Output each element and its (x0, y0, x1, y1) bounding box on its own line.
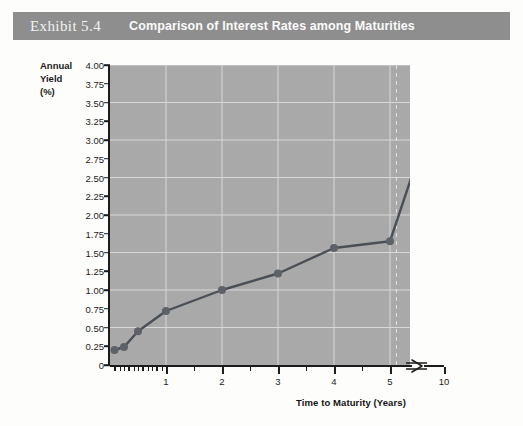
x-axis-major-tick (390, 367, 392, 374)
x-axis-tick-label: 10 (439, 376, 450, 387)
x-axis-minor-tick (138, 367, 139, 371)
data-point-marker (110, 346, 118, 354)
x-axis-title: Time to Maturity (Years) (296, 397, 406, 408)
x-axis-spine (110, 365, 412, 367)
y-axis-tick-label: 0 (62, 360, 104, 371)
x-axis-major-tick (278, 367, 280, 374)
exhibit-page: Exhibit 5.4 Comparison of Interest Rates… (0, 0, 523, 426)
data-point-marker (162, 307, 170, 315)
x-axis-tick-label: 5 (387, 376, 392, 387)
x-axis-minor-tick (142, 367, 143, 371)
y-axis-tick-label: 0.50 (62, 322, 104, 333)
horizontal-gridlines (110, 65, 410, 328)
x-axis-minor-tick (162, 367, 163, 371)
x-axis-major-tick (222, 367, 224, 374)
x-axis-major-tick (166, 367, 168, 374)
x-axis-minor-tick (134, 367, 135, 371)
data-point-marker (330, 244, 338, 252)
x-axis-minor-tick (124, 367, 125, 371)
y-axis-tick-label: 0.25 (62, 341, 104, 352)
x-axis-minor-tick (194, 367, 195, 371)
data-point-marker (120, 343, 128, 351)
x-axis-minor-tick (120, 367, 121, 371)
axis-break-icon (405, 356, 431, 376)
exhibit-number-label: Exhibit 5.4 (30, 18, 101, 35)
y-axis-tick-label: 1.00 (62, 285, 104, 296)
exhibit-title-label: Comparison of Interest Rates among Matur… (129, 19, 415, 33)
data-point-marker (134, 327, 142, 335)
data-point-marker (274, 270, 282, 278)
y-axis-tick-label: 3.75 (62, 78, 104, 89)
x-axis-minor-tick (362, 367, 363, 371)
x-axis-minor-tick (114, 367, 115, 371)
x-axis-major-tick (444, 367, 446, 374)
x-axis-minor-tick (306, 367, 307, 371)
x-axis-tick-label: 3 (275, 376, 280, 387)
y-axis-tick-label: 3.00 (62, 135, 104, 146)
y-axis-tick-label: 1.75 (62, 228, 104, 239)
y-axis-tick-label: 3.25 (62, 116, 104, 127)
y-axis-tick-label: 0.75 (62, 303, 104, 314)
x-axis-minor-tick (250, 367, 251, 371)
x-axis-minor-tick (156, 367, 157, 371)
x-axis-tick-label: 1 (163, 376, 168, 387)
plot-area (110, 65, 410, 365)
y-axis-tick-label: 3.50 (62, 97, 104, 108)
yield-curve-svg (110, 65, 410, 365)
y-axis-tick-label: 1.50 (62, 247, 104, 258)
x-axis-minor-tick (128, 367, 129, 371)
y-axis-spine (108, 65, 110, 366)
exhibit-header-bar: Exhibit 5.4 Comparison of Interest Rates… (13, 12, 510, 40)
y-axis-tick-labels: 00.250.500.751.001.251.501.752.002.252.5… (56, 65, 104, 365)
y-axis-tick-label: 2.50 (62, 172, 104, 183)
y-axis-tick-label: 4.00 (62, 60, 104, 71)
x-axis-tick-label: 4 (331, 376, 336, 387)
y-axis-tick-label: 1.25 (62, 266, 104, 277)
x-axis-tick-label: 2 (219, 376, 224, 387)
chart-container: Annual Yield (%) 00.250.500.751.001.251.… (0, 45, 523, 426)
data-point-marker (386, 237, 394, 245)
x-axis-minor-tick (152, 367, 153, 371)
y-axis-tick-label: 2.25 (62, 191, 104, 202)
y-axis-tick-label: 2.75 (62, 153, 104, 164)
data-point-marker (218, 286, 226, 294)
y-axis-tick-label: 2.00 (62, 210, 104, 221)
x-axis-minor-tick (148, 367, 149, 371)
x-axis-major-tick (334, 367, 336, 374)
